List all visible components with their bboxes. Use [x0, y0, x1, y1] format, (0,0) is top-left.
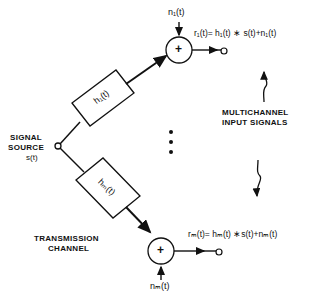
transmission-label-line2: CHANNEL: [48, 244, 89, 254]
noise-1-label: n₁(t): [168, 7, 185, 17]
adder-m-plus: +: [157, 245, 164, 255]
wire-source-to-h1: [60, 122, 80, 144]
ellipsis-dot: [169, 150, 173, 154]
source-label-line1: SIGNAL: [10, 133, 42, 143]
output-node-1: [221, 48, 227, 54]
wire-h1-to-adder1: [126, 56, 166, 84]
output-node-m: [216, 249, 222, 255]
noise-m-label: nₘ(t): [150, 281, 170, 291]
source-label-line2: SOURCE: [8, 143, 44, 153]
source-signal-label: s(t): [26, 153, 38, 162]
transmission-label-line1: TRANSMISSION: [34, 234, 99, 244]
output-eq-m: rₘ(t)= hₘ(t) ∗s(t)+nₘ(t): [188, 229, 277, 239]
ellipsis-dot: [169, 130, 173, 134]
pointer-arrow-down: [257, 160, 261, 196]
wire-source-to-hm: [60, 148, 84, 172]
ellipsis-dot: [169, 140, 173, 144]
multichannel-label-line1: MULTICHANNEL: [222, 108, 289, 118]
adder-1-plus: +: [175, 44, 182, 54]
multichannel-diagram: [0, 0, 311, 296]
multichannel-label-line2: INPUT SIGNALS: [222, 118, 288, 128]
pointer-arrow-up: [264, 72, 267, 102]
wire-hm-to-adderm: [126, 207, 150, 232]
output-eq-1: r₁(t)= h₁(t) ∗ s(t)+n₁(t): [194, 28, 276, 38]
